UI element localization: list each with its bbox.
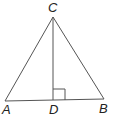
label-c: C — [48, 0, 58, 15]
label-a: A — [1, 102, 11, 117]
segment-ac — [5, 17, 53, 101]
triangle-diagram: C A D B — [0, 0, 120, 117]
segment-bc — [53, 17, 104, 99]
label-b: B — [99, 101, 108, 116]
segment-ab — [5, 99, 104, 101]
label-d: D — [49, 102, 58, 117]
right-angle-marker-icon — [53, 89, 65, 100]
